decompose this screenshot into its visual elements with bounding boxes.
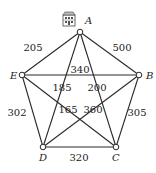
edge-weight-B-D: 360 [83, 104, 102, 115]
node-label-C: C [112, 152, 120, 163]
node-D [40, 144, 46, 150]
node-E [19, 72, 25, 78]
weighted-graph-diagram: 205500340185200165360302305320 ABCDE [0, 0, 156, 173]
node-A [77, 29, 83, 35]
graph-canvas: 205500340185200165360302305320 ABCDE [0, 0, 156, 173]
node-label-D: D [38, 152, 47, 163]
node-C [113, 144, 119, 150]
edge-weight-E-C: 165 [58, 104, 77, 115]
building-icon [63, 12, 75, 26]
edge-weight-A-D: 185 [52, 82, 71, 93]
edge-weight-B-C: 305 [127, 107, 146, 118]
node-B [136, 72, 142, 78]
node-label-E: E [9, 70, 18, 81]
edge-weight-E-D: 302 [7, 107, 26, 118]
edge-weight-A-C: 200 [87, 82, 106, 93]
edge-weight-A-E: 205 [23, 42, 42, 53]
edge-weight-D-C: 320 [69, 152, 88, 163]
edge-weight-E-B: 340 [70, 64, 89, 75]
node-label-A: A [84, 15, 92, 26]
node-label-B: B [145, 70, 153, 81]
edge-weight-labels: 205500340185200165360302305320 [7, 42, 146, 163]
edge-weight-A-B: 500 [112, 42, 131, 53]
